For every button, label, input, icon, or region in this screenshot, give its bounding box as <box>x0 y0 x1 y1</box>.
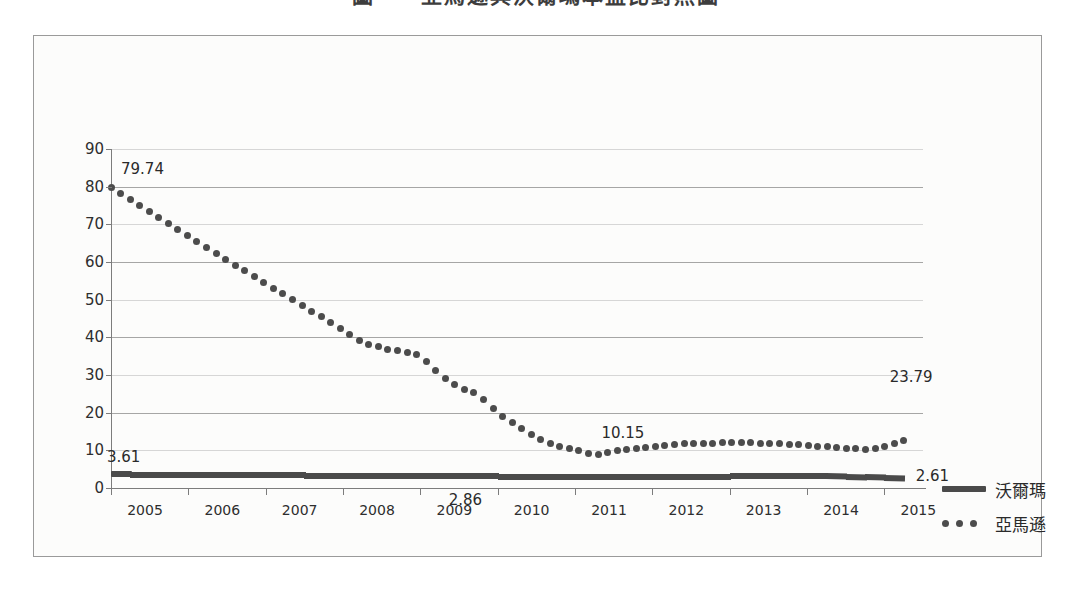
y-tick <box>106 337 112 338</box>
data-label: 2.86 <box>449 493 482 508</box>
solid-line-icon <box>942 486 986 492</box>
x-tick <box>266 488 267 495</box>
series-segment-walmart <box>710 474 731 480</box>
y-tick <box>106 149 112 150</box>
gridline <box>111 300 923 301</box>
data-point-amazon <box>165 220 172 227</box>
data-point-amazon <box>404 349 411 356</box>
y-tick <box>106 224 112 225</box>
x-tick <box>730 488 731 495</box>
x-tick <box>420 488 421 495</box>
x-tick-label: 2014 <box>811 502 871 518</box>
plot-area <box>111 149 923 488</box>
data-point-amazon <box>547 440 554 447</box>
data-point-amazon <box>776 440 783 447</box>
x-tick <box>111 488 112 495</box>
series-segment-walmart <box>478 473 499 479</box>
data-point-amazon <box>356 337 363 344</box>
y-tick-label: 90 <box>70 142 104 157</box>
series-segment-walmart <box>169 472 190 478</box>
y-tick-label: 80 <box>70 180 104 195</box>
x-tick-label: 2006 <box>192 502 252 518</box>
data-point-amazon <box>251 273 258 280</box>
x-tick <box>575 488 576 495</box>
series-segment-walmart <box>575 474 596 480</box>
data-point-amazon <box>509 419 516 426</box>
series-segment-walmart <box>285 472 306 478</box>
data-point-amazon <box>241 267 248 274</box>
y-tick <box>106 488 112 489</box>
series-segment-walmart <box>304 473 325 479</box>
data-point-amazon <box>365 341 372 348</box>
data-point-amazon <box>451 381 458 388</box>
data-point-amazon <box>423 358 430 365</box>
data-point-amazon <box>700 440 707 447</box>
data-point-amazon <box>614 447 621 454</box>
series-segment-walmart <box>672 474 693 480</box>
data-point-amazon <box>585 450 592 457</box>
y-tick-label: 40 <box>70 330 104 345</box>
data-point-amazon <box>738 439 745 446</box>
data-point-amazon <box>203 244 210 251</box>
data-point-amazon <box>747 439 754 446</box>
chart-title-strip: 圖一 亞馬遜與沃爾瑪本益比對照圖 <box>0 0 1071 9</box>
chart-legend: 沃爾瑪 亞馬遜 <box>942 472 1067 540</box>
gridline <box>111 375 923 376</box>
data-point-amazon <box>480 396 487 403</box>
y-tick-label: 0 <box>70 481 104 496</box>
data-point-amazon <box>852 445 859 452</box>
y-tick-label: 50 <box>70 293 104 308</box>
series-segment-walmart <box>420 473 441 479</box>
series-segment-walmart <box>536 474 557 480</box>
series-segment-walmart <box>768 473 789 479</box>
data-point-amazon <box>136 202 143 209</box>
x-tick-label: 2010 <box>502 502 562 518</box>
data-point-amazon <box>862 446 869 453</box>
series-segment-walmart <box>362 473 383 479</box>
y-tick-label: 20 <box>70 406 104 421</box>
data-point-amazon <box>661 442 668 449</box>
data-point-amazon <box>757 440 764 447</box>
data-point-amazon <box>432 367 439 374</box>
x-tick <box>652 488 653 495</box>
data-point-amazon <box>490 405 497 412</box>
data-label: 23.79 <box>890 370 933 385</box>
y-tick <box>106 187 112 188</box>
y-tick-label: 10 <box>70 443 104 458</box>
data-point-amazon <box>461 386 468 393</box>
data-point-amazon <box>795 441 802 448</box>
x-tick <box>188 488 189 495</box>
data-point-amazon <box>786 441 793 448</box>
x-tick-label: 2005 <box>115 502 175 518</box>
data-point-amazon <box>270 285 277 292</box>
series-segment-walmart <box>846 474 867 481</box>
data-point-amazon <box>127 196 134 203</box>
y-tick <box>106 413 112 414</box>
series-segment-walmart <box>807 473 828 479</box>
legend-item-amazon[interactable]: 亞馬遜 <box>942 506 1067 540</box>
x-tick-label: 2013 <box>734 502 794 518</box>
series-segment-walmart <box>633 474 654 480</box>
data-point-amazon <box>566 445 573 452</box>
data-label: 10.15 <box>601 426 644 441</box>
x-tick-label: 2008 <box>347 502 407 518</box>
data-label: 79.74 <box>121 162 164 177</box>
data-point-amazon <box>413 351 420 358</box>
series-segment-walmart <box>343 473 364 479</box>
series-segment-walmart <box>865 474 886 481</box>
series-segment-walmart <box>594 474 615 480</box>
x-tick-label: 2011 <box>579 502 639 518</box>
series-segment-walmart <box>749 473 770 479</box>
data-point-amazon <box>537 436 544 443</box>
data-point-amazon <box>891 440 898 447</box>
series-segment-walmart <box>150 472 171 478</box>
data-point-amazon <box>375 343 382 350</box>
x-tick-label: 2015 <box>888 502 948 518</box>
y-tick-label: 70 <box>70 217 104 232</box>
legend-item-walmart[interactable]: 沃爾瑪 <box>942 472 1067 506</box>
series-segment-walmart <box>208 472 229 478</box>
series-segment-walmart <box>459 473 480 479</box>
series-segment-walmart <box>382 473 403 479</box>
x-tick <box>807 488 808 495</box>
series-segment-walmart <box>246 472 267 478</box>
